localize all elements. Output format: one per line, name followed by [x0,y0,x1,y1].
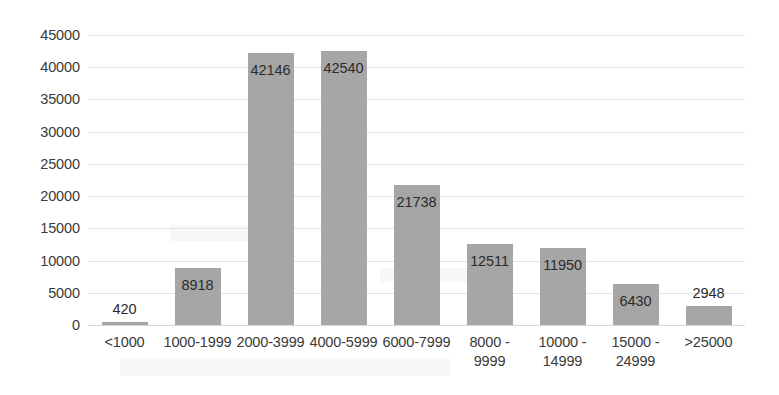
bar-value-label: 21738 [381,194,453,210]
bar[interactable] [102,322,148,325]
gridline [88,164,745,165]
gridline [88,99,745,100]
bar-value-label: 420 [89,301,161,317]
y-axis-tick-label: 45000 [8,27,80,43]
bar-value-label: 42540 [308,60,380,76]
y-axis-tick-label: 5000 [8,285,80,301]
bar-value-label: 8918 [162,277,234,293]
y-axis-tick-label: 35000 [8,91,80,107]
x-axis: <10001000-19992000-39994000-59996000-799… [88,333,745,391]
y-axis-tick-label: 40000 [8,59,80,75]
y-axis-tick-label: 0 [8,317,80,333]
y-axis-tick-label: 25000 [8,156,80,172]
bar-chart: 0500010000150002000025000300003500040000… [0,0,779,395]
bar-value-label: 11950 [527,257,599,273]
bar-value-label: 12511 [454,253,526,269]
x-axis-tick-line: 24999 [592,352,679,371]
gridline [88,325,745,326]
gridline [88,67,745,68]
bar-value-label: 42146 [235,62,307,78]
bar[interactable] [321,51,367,325]
y-axis-tick-label: 15000 [8,220,80,236]
x-axis-tick-label: >25000 [665,333,752,352]
gridline [88,35,745,36]
y-axis-tick-label: 20000 [8,188,80,204]
bar[interactable] [686,306,732,325]
y-axis-tick-label: 30000 [8,124,80,140]
y-axis: 0500010000150002000025000300003500040000… [0,35,80,325]
x-axis-tick-line: >25000 [665,333,752,352]
bar-value-label: 2948 [673,285,745,301]
bar-value-label: 6430 [600,293,672,309]
plot-area: 4208918421464254021738125111195064302948 [88,35,745,325]
bar[interactable] [248,53,294,325]
gridline [88,132,745,133]
y-axis-tick-label: 10000 [8,253,80,269]
